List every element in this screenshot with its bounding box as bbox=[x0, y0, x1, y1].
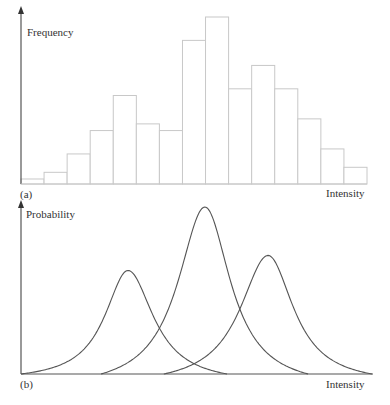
histogram-bar bbox=[252, 65, 275, 184]
histogram-bars bbox=[21, 17, 367, 184]
figure: Frequency Intensity (a) Probability Inte… bbox=[0, 0, 390, 405]
panel-label-b: (b) bbox=[20, 378, 33, 391]
x-axis-label-b: Intensity bbox=[326, 378, 365, 390]
y-axis-arrow-a bbox=[18, 6, 24, 14]
histogram-bar bbox=[275, 89, 298, 184]
panel-label-a: (a) bbox=[20, 188, 33, 201]
histogram-bar bbox=[298, 119, 321, 184]
distribution-3-curve bbox=[164, 255, 372, 374]
histogram-bar bbox=[136, 124, 159, 184]
distribution-curves bbox=[21, 207, 372, 374]
distribution-2-curve bbox=[101, 207, 308, 374]
distribution-panel: Probability Intensity (b) bbox=[18, 200, 373, 391]
y-axis-arrow-b bbox=[18, 200, 24, 208]
histogram-bar bbox=[159, 131, 182, 184]
y-axis-label-a: Frequency bbox=[27, 26, 74, 38]
histogram-bar bbox=[206, 17, 229, 184]
histogram-bar bbox=[321, 149, 344, 184]
y-axis-label-b: Probability bbox=[26, 208, 75, 220]
histogram-bar bbox=[113, 95, 136, 184]
distribution-1-curve bbox=[21, 270, 227, 374]
histogram-bar bbox=[182, 40, 205, 184]
histogram-panel: Frequency Intensity (a) bbox=[18, 6, 367, 201]
histogram-bar bbox=[67, 154, 90, 184]
histogram-bar bbox=[229, 89, 252, 184]
histogram-bar bbox=[344, 167, 367, 184]
histogram-bar bbox=[90, 131, 113, 184]
x-axis-label-a: Intensity bbox=[326, 187, 365, 199]
histogram-bar bbox=[21, 179, 44, 184]
histogram-bar bbox=[44, 172, 67, 184]
